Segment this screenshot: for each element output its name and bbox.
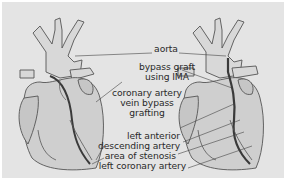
label-left-coronary-artery: left coronary artery [88, 161, 186, 171]
right-heart-illustration [178, 18, 263, 170]
label-vein-graft-line3: grafting [106, 108, 188, 118]
label-bypass-graft-line2: using IMA [131, 72, 203, 82]
label-aorta: aorta [150, 44, 182, 54]
